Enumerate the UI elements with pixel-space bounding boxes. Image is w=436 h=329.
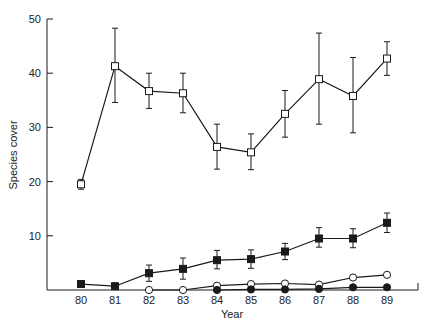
data-point-circle (349, 274, 356, 281)
axes (47, 19, 418, 290)
data-point-square (384, 219, 391, 226)
data-point-square (78, 181, 85, 188)
data-point-square (282, 248, 289, 255)
y-tick-label: 40 (29, 67, 41, 79)
y-tick-label: 50 (29, 13, 41, 25)
data-point-square (112, 63, 119, 70)
y-ticks: 1020304050 (29, 13, 53, 242)
data-point-square (350, 235, 357, 242)
series-open-square (78, 28, 391, 189)
data-point-square (78, 281, 85, 288)
data-point-square (180, 90, 187, 97)
x-tick-label: 81 (109, 294, 121, 306)
y-tick-label: 20 (29, 176, 41, 188)
data-point-circle (213, 286, 220, 293)
y-axis-label: Species cover (7, 120, 19, 189)
data-point-circle (349, 284, 356, 291)
data-point-circle (247, 286, 254, 293)
series-filled-square (78, 213, 391, 290)
x-tick-label: 84 (211, 294, 223, 306)
data-point-circle (145, 286, 152, 293)
x-tick-label: 82 (143, 294, 155, 306)
data-point-circle (315, 285, 322, 292)
data-point-square (146, 88, 153, 95)
x-axis-label: Year (221, 308, 244, 320)
y-tick-label: 10 (29, 230, 41, 242)
data-point-square (316, 235, 323, 242)
data-point-circle (281, 286, 288, 293)
data-point-circle (383, 271, 390, 278)
data-point-square (180, 265, 187, 272)
data-point-circle (383, 284, 390, 291)
series-line (81, 59, 387, 185)
series-line (81, 223, 387, 286)
x-ticks: 80818283848586878889 (75, 294, 393, 306)
data-point-circle (179, 286, 186, 293)
x-tick-label: 87 (313, 294, 325, 306)
x-tick-label: 80 (75, 294, 87, 306)
series-layer (78, 28, 391, 293)
series-filled-circle (213, 284, 390, 294)
data-point-square (282, 110, 289, 117)
data-point-square (214, 257, 221, 264)
y-tick-label: 30 (29, 121, 41, 133)
x-tick-label: 86 (279, 294, 291, 306)
x-tick-label: 85 (245, 294, 257, 306)
data-point-square (350, 92, 357, 99)
data-point-square (316, 76, 323, 83)
data-point-square (112, 283, 119, 290)
data-point-square (384, 55, 391, 62)
data-point-square (248, 256, 255, 263)
species-cover-chart: 1020304050 80818283848586878889 Year Spe… (0, 0, 436, 329)
data-point-square (248, 149, 255, 156)
data-point-square (146, 270, 153, 277)
data-point-square (214, 143, 221, 150)
x-tick-label: 88 (347, 294, 359, 306)
x-tick-label: 89 (381, 294, 393, 306)
x-tick-label: 83 (177, 294, 189, 306)
